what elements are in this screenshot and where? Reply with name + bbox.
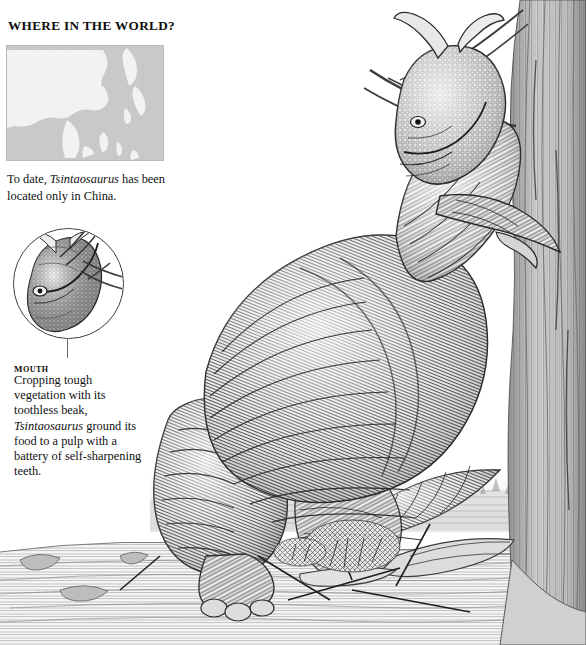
tree-trunk (500, 0, 586, 645)
sidebar: WHERE IN THE WORLD? (0, 0, 175, 645)
map-caption-species: Tsintaosaurus (50, 172, 119, 186)
eye (411, 117, 426, 128)
mouth-detail-caption: Cropping tough vegetation with its tooth… (14, 373, 142, 479)
mouth-caption-species: Tsintaosaurus (14, 419, 83, 433)
book-page: WHERE IN THE WORLD? (0, 0, 586, 645)
mouth-caption-before: Cropping tough vegetation with its tooth… (14, 373, 106, 417)
mouth-detail-inset (13, 228, 124, 339)
east-asia-map (6, 45, 164, 161)
map-caption: To date, Tsintaosaurus has been located … (7, 171, 169, 204)
where-in-the-world-heading: WHERE IN THE WORLD? (8, 18, 175, 34)
map-caption-before: To date, (7, 172, 50, 186)
inset-leader-line (67, 338, 68, 358)
